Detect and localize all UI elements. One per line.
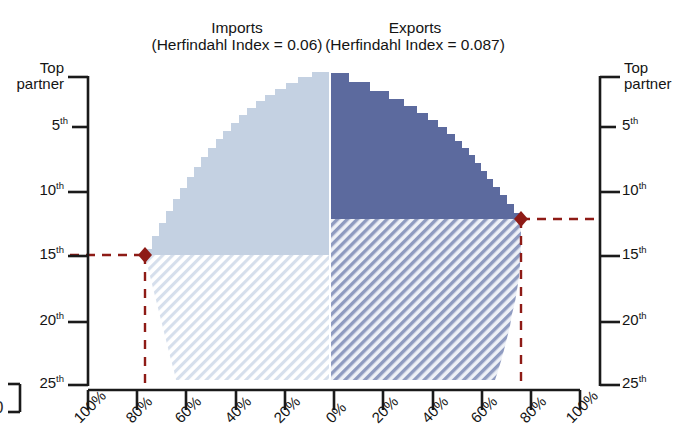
y-right-25th-value: 25 [622, 374, 639, 391]
y-left-top-partner-line1: Top [40, 59, 64, 76]
y-right-20th-sup: th [639, 310, 647, 321]
clipped-left-glyph: 0 [0, 398, 3, 418]
y-right-5th-sup: th [630, 115, 638, 126]
imports-hatched-area [145, 255, 329, 380]
y-left-10th-sup: th [56, 180, 64, 191]
y-right-25th-sup: th [639, 373, 647, 384]
y-left-20th-sup: th [56, 310, 64, 321]
y-left-15th-sup: th [56, 244, 64, 255]
exports-panel-title: Exports (Herfindahl Index = 0.087) [290, 20, 540, 53]
y-axis-right [600, 76, 620, 386]
exports-area [331, 70, 521, 380]
imports-threshold-guides [70, 247, 152, 388]
imports-solid-area [145, 70, 329, 255]
y-left-label-top-partner: Top partner [0, 60, 64, 92]
exports-title-text: Exports [290, 20, 540, 37]
y-left-label-20th: 20th [0, 312, 64, 328]
y-right-20th-value: 20 [622, 311, 639, 328]
y-right-label-5th: 5th [622, 117, 638, 133]
plot-area [0, 0, 680, 444]
y-right-15th-value: 15 [622, 245, 639, 262]
y-left-5th-sup: th [60, 115, 68, 126]
y-right-label-top-partner: Top partner [624, 60, 680, 92]
y-right-10th-sup: th [639, 180, 647, 191]
y-right-top-partner-line2: partner [624, 75, 672, 92]
y-right-label-15th: 15th [622, 246, 647, 262]
y-left-label-10th: 10th [0, 182, 64, 198]
y-left-20th-value: 20 [39, 311, 56, 328]
exports-hatched-area [331, 219, 521, 380]
y-right-10th-value: 10 [622, 181, 639, 198]
y-right-top-partner-line1: Top [624, 59, 648, 76]
y-left-label-5th: 5th [0, 117, 68, 133]
y-left-25th-sup: th [56, 373, 64, 384]
y-axis-left [68, 76, 88, 386]
clipped-top-text [0, 0, 680, 6]
y-left-5th-value: 5 [52, 116, 60, 133]
y-right-label-20th: 20th [622, 312, 647, 328]
y-left-label-15th: 15th [0, 246, 64, 262]
y-right-label-10th: 10th [622, 182, 647, 198]
imports-area [145, 70, 329, 380]
exports-solid-area [331, 70, 521, 219]
y-left-15th-value: 15 [39, 245, 56, 262]
y-left-top-partner-line2: partner [16, 75, 64, 92]
y-right-15th-sup: th [639, 244, 647, 255]
exports-threshold-guides [514, 211, 600, 388]
y-left-10th-value: 10 [39, 181, 56, 198]
chart-figure: 0 Imports (Herfindahl Index = 0.06) Expo… [0, 0, 680, 444]
exports-subtitle-text: (Herfindahl Index = 0.087) [290, 37, 540, 54]
y-left-label-25th: 25th [0, 375, 64, 391]
y-right-label-25th: 25th [622, 375, 647, 391]
y-left-25th-value: 25 [39, 374, 56, 391]
